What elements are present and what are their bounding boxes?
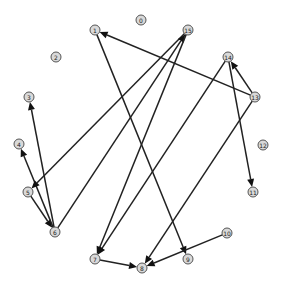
node-10[interactable]: 10 (222, 228, 232, 238)
node-2[interactable]: 2 (51, 52, 61, 62)
node-label: 1 (93, 27, 97, 34)
node-label: 8 (140, 265, 144, 272)
node-8[interactable]: 8 (137, 263, 147, 273)
node-0[interactable]: 0 (136, 15, 146, 25)
node-1[interactable]: 1 (90, 25, 100, 35)
node-14[interactable]: 14 (223, 52, 233, 62)
node-label: 10 (223, 230, 231, 237)
node-label: 0 (139, 17, 143, 24)
edge-line (149, 101, 252, 257)
node-11[interactable]: 11 (248, 187, 258, 197)
node-label: 2 (54, 54, 58, 61)
node-7[interactable]: 7 (90, 254, 100, 264)
node-9[interactable]: 9 (183, 254, 193, 264)
node-label: 15 (184, 27, 192, 34)
node-13[interactable]: 13 (250, 92, 260, 102)
node-label: 11 (249, 189, 257, 196)
node-label: 14 (224, 54, 232, 61)
edge-7-to-8 (100, 260, 137, 269)
node-15[interactable]: 15 (183, 25, 193, 35)
node-label: 13 (251, 94, 259, 101)
edge-line (229, 62, 251, 179)
directed-graph: 0123456789101112131415 (0, 0, 281, 283)
edge-6-to-15 (58, 34, 186, 228)
node-4[interactable]: 4 (14, 139, 24, 149)
node-label: 6 (53, 229, 57, 236)
node-label: 7 (93, 256, 97, 263)
edge-line (97, 35, 183, 247)
arrowhead-icon (231, 61, 238, 70)
edge-13-to-8 (145, 101, 252, 264)
node-label: 12 (259, 142, 267, 149)
node-5[interactable]: 5 (23, 187, 33, 197)
node-12[interactable]: 12 (258, 140, 268, 150)
node-6[interactable]: 6 (50, 227, 60, 237)
node-label: 4 (17, 141, 21, 148)
node-label: 5 (26, 189, 30, 196)
node-3[interactable]: 3 (24, 92, 34, 102)
edge-14-to-7 (98, 61, 226, 255)
arrowhead-icon (28, 102, 35, 111)
edge-6-to-3 (28, 102, 54, 227)
arrowhead-icon (247, 179, 254, 188)
node-label: 3 (27, 94, 31, 101)
node-label: 9 (186, 256, 190, 263)
edge-14-to-11 (229, 62, 254, 187)
arrowhead-icon (129, 262, 138, 269)
edge-line (100, 260, 129, 266)
